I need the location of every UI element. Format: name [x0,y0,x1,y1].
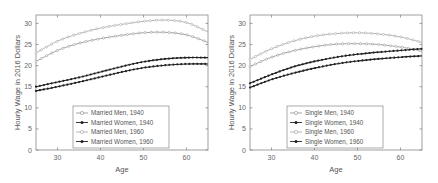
y-tick-label: 10 [24,104,32,111]
figure: 05101520253030405060AgeHourly Wage in 20… [0,0,438,183]
legend-entry: Married Men, 1960 [91,128,144,135]
chart-panel-1: 05101520253030405060AgeHourly Wage in 20… [13,15,208,174]
x-tick-label: 30 [54,154,62,161]
y-tick-label: 15 [24,83,32,90]
legend: Married Men, 1940Married Women, 1940Marr… [73,106,169,148]
chart-panel-2: 05101520253030405060AgeHourly Wage in 20… [227,15,422,174]
x-axis-label: Age [329,165,342,174]
y-tick-label: 15 [238,83,246,90]
y-tick-label: 20 [24,62,32,69]
y-tick-label: 0 [242,147,246,154]
legend-entry: Married Men, 1940 [91,109,144,116]
x-tick-label: 50 [354,154,362,161]
y-axis-label: Hourly Wage in 2016 Dollars [227,35,236,130]
y-tick-label: 0 [28,147,32,154]
y-tick-label: 30 [24,20,32,27]
y-tick-label: 5 [28,125,32,132]
legend-entry: Single Men, 1960 [305,128,355,136]
y-tick-label: 5 [242,125,246,132]
y-axis-label: Hourly Wage in 2016 Dollars [13,35,22,130]
x-tick-label: 30 [268,154,276,161]
series-line [36,64,208,91]
legend-entry: Single Men, 1940 [305,109,355,117]
y-tick-label: 25 [24,41,32,48]
y-tick-label: 25 [238,41,246,48]
chart-canvas: 05101520253030405060AgeHourly Wage in 20… [0,0,438,183]
x-tick-label: 50 [140,154,148,161]
x-tick-label: 40 [311,154,319,161]
x-axis-label: Age [115,165,128,174]
legend-entry: Married Women, 1960 [91,138,154,145]
y-tick-label: 20 [238,62,246,69]
legend-entry: Single Women, 1960 [305,138,364,146]
x-tick-label: 60 [183,154,191,161]
legend: Single Men, 1940Single Women, 1940Single… [287,106,383,148]
legend-entry: Single Women, 1940 [305,119,364,127]
y-tick-label: 10 [238,104,246,111]
legend-entry: Married Women, 1940 [91,119,154,126]
x-tick-label: 60 [397,154,405,161]
y-tick-label: 30 [238,20,246,27]
x-tick-label: 40 [97,154,105,161]
